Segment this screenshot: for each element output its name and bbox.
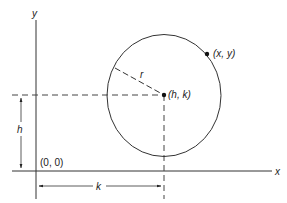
h-label: h: [17, 124, 23, 135]
point-on-circle: [205, 52, 209, 56]
y-axis: y: [31, 8, 38, 199]
point-label: (x, y): [213, 48, 235, 59]
radius-label: r: [140, 69, 144, 80]
x-axis-label: x: [274, 166, 281, 177]
h-dimension: h: [17, 98, 23, 168]
k-dimension: k: [39, 181, 161, 192]
center-label: (h, k): [168, 89, 191, 100]
circle-diagram: y x (0, 0) r (h, k) (x, y) h: [0, 0, 287, 203]
k-label: k: [96, 181, 102, 192]
center-point: [162, 93, 166, 97]
y-axis-label: y: [31, 8, 38, 19]
origin-label: (0, 0): [40, 157, 63, 168]
